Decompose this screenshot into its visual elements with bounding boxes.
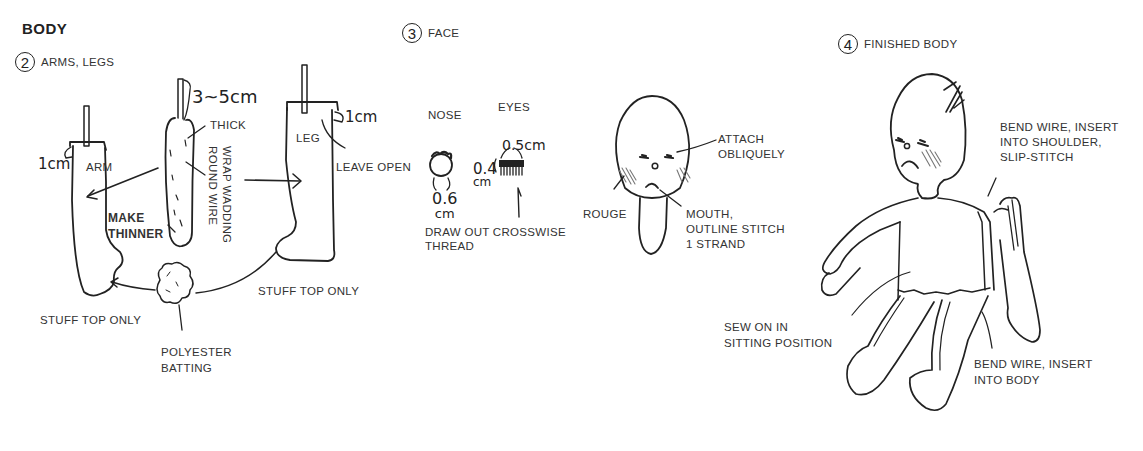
step-2-header: 2 ARMS, LEGS xyxy=(15,52,114,72)
step-4-number: 4 xyxy=(838,34,858,54)
eyes-label: EYES xyxy=(498,100,530,114)
leg-label: LEG xyxy=(296,131,320,145)
step-4-label: FINISHED BODY xyxy=(864,38,957,50)
rouge-label: ROUGE xyxy=(583,207,627,221)
nose-drawing xyxy=(430,152,452,190)
thick-label: THICK xyxy=(210,118,246,132)
wrap-wadding-label: WRAP WADDINGROUND WIRE xyxy=(206,146,234,243)
nose-label: NOSE xyxy=(428,108,462,122)
arm-drawing xyxy=(65,106,123,296)
step-2-label: ARMS, LEGS xyxy=(41,56,114,68)
shoulder-instruction-label: BEND WIRE, INSERTINTO SHOULDER,SLIP-STIT… xyxy=(1000,120,1119,165)
step-4-header: 4 FINISHED BODY xyxy=(838,34,957,54)
step-3-label: FACE xyxy=(428,27,459,39)
sitting-position-label: SEW ON INSITTING POSITION xyxy=(724,319,832,351)
attach-obliquely-label: ATTACHOBLIQUELY xyxy=(718,132,785,162)
eye-drawing xyxy=(495,148,525,217)
draw-out-thread-label: DRAW OUT CROSSWISETHREAD xyxy=(425,225,566,253)
leave-open-label: LEAVE OPEN xyxy=(336,160,411,174)
diagram-line-art xyxy=(0,0,1143,451)
polyester-batting-label: POLYESTERBATTING xyxy=(161,344,232,376)
leg-drawing xyxy=(276,65,345,261)
arm-label: ARM xyxy=(86,160,112,174)
stuff-top-right-label: STUFF TOP ONLY xyxy=(258,284,359,298)
body-instruction-label: BEND WIRE, INSERTINTO BODY xyxy=(974,356,1093,388)
eye-width-label: 0.5cm xyxy=(502,137,546,153)
wire-length-label: 3~5cm xyxy=(192,86,257,107)
arrow-to-leg xyxy=(245,180,300,181)
mouth-label: MOUTH,OUTLINE STITCH1 STRAND xyxy=(686,207,785,252)
step-2-number: 2 xyxy=(15,52,35,72)
step-3-number: 3 xyxy=(402,23,422,43)
leg-margin-label: 1cm xyxy=(345,108,377,126)
eye-height-label: 0.4cm xyxy=(473,163,497,188)
make-thinner-label: MAKETHINNER xyxy=(108,210,163,242)
page-title: BODY xyxy=(22,20,67,37)
stuff-top-left-label: STUFF TOP ONLY xyxy=(40,313,141,327)
arm-margin-label: 1cm xyxy=(38,155,70,173)
nose-size-label: 0.6cm xyxy=(432,192,457,221)
step-3-header: 3 FACE xyxy=(402,23,459,43)
instruction-diagram: BODY 2 ARMS, LEGS 3~5cm THICK WRAP WADDI… xyxy=(0,0,1143,451)
